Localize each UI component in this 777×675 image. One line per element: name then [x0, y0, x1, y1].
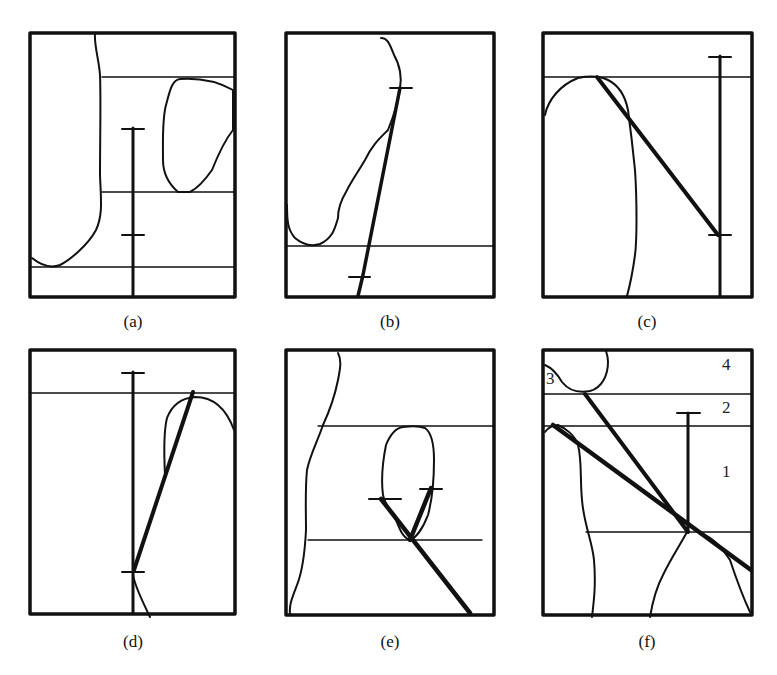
panel-e-caption: (e)	[370, 632, 410, 652]
panel-a-right-contour	[163, 79, 233, 192]
panel-a-caption: (a)	[113, 312, 153, 332]
panel-c	[543, 33, 752, 297]
panel-b-caption: (b)	[370, 312, 410, 332]
panel-b-contour	[287, 38, 401, 245]
panel-f-caption: (f)	[627, 632, 667, 652]
panel-a	[30, 33, 235, 297]
panel-f-region-1: 1	[722, 462, 731, 482]
panel-e-frame	[286, 350, 494, 615]
panel-f-region-2: 2	[722, 398, 731, 418]
panel-e	[286, 350, 494, 615]
panel-c-caption: (c)	[627, 312, 667, 332]
figure-canvas	[0, 0, 777, 675]
panel-f-region-3: 3	[546, 369, 555, 389]
panel-e-inner-contour	[382, 426, 434, 540]
panel-f-region-4: 4	[722, 355, 731, 375]
panel-a-left-contour	[32, 34, 101, 266]
panel-b	[286, 33, 494, 297]
panel-d	[30, 350, 235, 617]
panel-d-contour	[164, 397, 234, 475]
panel-e-left-contour	[290, 353, 341, 614]
panel-b-frame	[286, 33, 494, 297]
panel-d-caption: (d)	[113, 632, 153, 652]
panel-f	[543, 350, 752, 617]
panel-f-left-contour	[545, 425, 595, 617]
